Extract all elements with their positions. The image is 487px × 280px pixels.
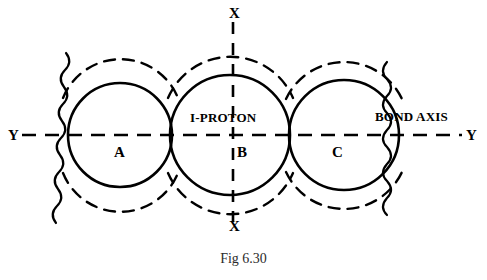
figure-page: X X Y Y A B C I-PROTON BOND AXIS Fig 6.3… [0, 0, 487, 280]
axis-label-y-left: Y [8, 128, 19, 143]
halo-arc-b-bottom [168, 173, 293, 214]
axis-label-x-top: X [229, 6, 240, 21]
axis-label-x-bottom: X [229, 219, 240, 234]
figure-caption: Fig 6.30 [0, 251, 487, 267]
orbital-label-c: C [332, 145, 343, 160]
orbital-label-b: B [237, 145, 247, 160]
axis-label-y-right: Y [466, 128, 477, 143]
annotation-proton: I-PROTON [190, 111, 256, 124]
orbital-overlap-diagram [0, 0, 487, 280]
halo-arc-a-bottom [63, 173, 178, 212]
halo-arc-a-top [63, 59, 178, 98]
orbital-label-a: A [114, 145, 125, 160]
annotation-bond-axis: BOND AXIS [375, 110, 448, 123]
